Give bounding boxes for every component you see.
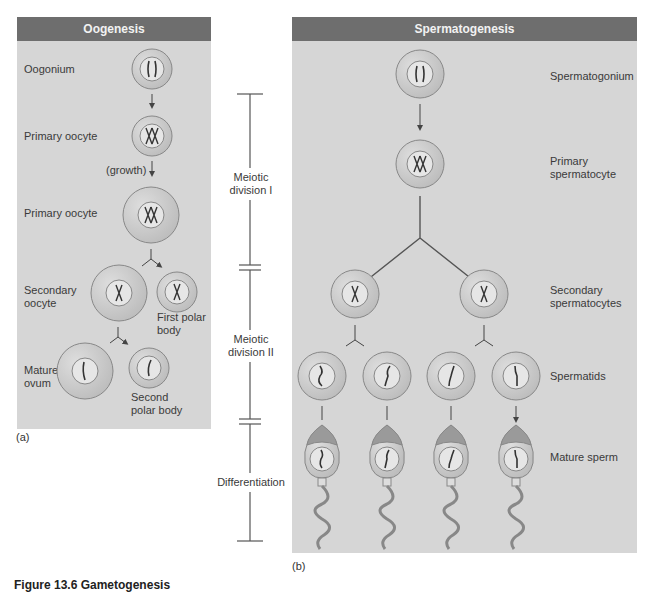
oogenesis-cells (57, 49, 197, 399)
stage-scale (237, 94, 263, 541)
spermatids (298, 352, 540, 400)
mature-sperm (305, 425, 534, 549)
spermatogenesis-cells (298, 50, 540, 549)
figure-caption: Figure 13.6 Gametogenesis (14, 578, 170, 592)
